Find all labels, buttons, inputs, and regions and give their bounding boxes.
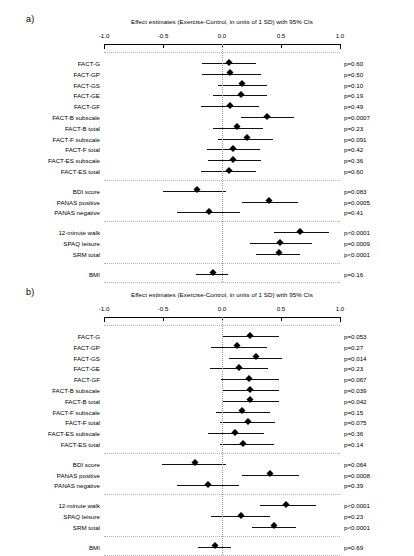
forest-row: BMIp=0.69 xyxy=(0,542,414,553)
forest-row: FACT-B totalp=0.042 xyxy=(0,396,414,407)
point-estimate-marker xyxy=(275,249,282,256)
forest-row: FACT-GFp=0.067 xyxy=(0,374,414,385)
forest-row: FACT-Gp=0.60 xyxy=(0,58,414,69)
row-label: FACT-G xyxy=(8,331,100,342)
point-estimate-marker xyxy=(239,407,246,414)
p-value-label: p=0.50 xyxy=(344,69,414,80)
p-value-label: p=0.60 xyxy=(344,58,414,69)
row-label: BMI xyxy=(8,542,100,553)
point-estimate-marker xyxy=(229,145,236,152)
point-estimate-marker xyxy=(282,501,289,508)
panel-a-title: Effect estimates (Exercise-Control, in u… xyxy=(104,18,340,25)
row-label: FACT-ES subscale xyxy=(8,428,100,439)
point-estimate-marker xyxy=(226,58,233,65)
point-estimate-marker xyxy=(211,542,218,549)
axis-tick-label: -1.0 xyxy=(99,32,110,39)
p-value-label: p=0.039 xyxy=(344,385,414,396)
confidence-interval-bar xyxy=(220,444,274,445)
p-value-label: p=0.27 xyxy=(344,342,414,353)
p-value-label: p=0.064 xyxy=(344,459,414,470)
p-value-label: p=0.0008 xyxy=(344,470,414,481)
row-label: BDI score xyxy=(8,186,100,197)
forest-row: FACT-B subscalep=0.039 xyxy=(0,385,414,396)
point-estimate-marker xyxy=(246,375,253,382)
point-estimate-marker xyxy=(235,364,242,371)
p-value-label: p=0.49 xyxy=(344,101,414,112)
row-label: FACT-F total xyxy=(8,144,100,155)
p-value-label: p=0.10 xyxy=(344,80,414,91)
forest-row: FACT-B subscalep=0.0007 xyxy=(0,112,414,123)
point-estimate-marker xyxy=(243,134,250,141)
p-value-label: p=0.014 xyxy=(344,353,414,364)
point-estimate-marker xyxy=(247,385,254,392)
forest-row: FACT-F totalp=0.075 xyxy=(0,417,414,428)
point-estimate-marker xyxy=(194,186,201,193)
p-value-label: p=0.042 xyxy=(344,396,414,407)
panel-b-title: Effect estimates (Exercise-Control, in u… xyxy=(104,291,340,298)
point-estimate-marker xyxy=(240,439,247,446)
forest-row: FACT-GEp=0.23 xyxy=(0,363,414,374)
point-estimate-marker xyxy=(204,481,211,488)
point-estimate-marker xyxy=(234,123,241,130)
row-label: BDI score xyxy=(8,459,100,470)
row-label: FACT-GP xyxy=(8,342,100,353)
forest-row: 12-minute walkp<0.0001 xyxy=(0,500,414,511)
point-estimate-marker xyxy=(267,470,274,477)
axis-tick xyxy=(340,44,341,49)
row-label: FACT-B total xyxy=(8,396,100,407)
p-value-label: p=0.69 xyxy=(344,542,414,553)
p-value-label: p=0.053 xyxy=(344,331,414,342)
row-label: FACT-GE xyxy=(8,363,100,374)
axis-tick-label: 0.0 xyxy=(218,305,227,312)
forest-row: FACT-ES totalp=0.14 xyxy=(0,439,414,450)
forest-row: FACT-GPp=0.50 xyxy=(0,69,414,80)
p-value-label: p=0.19 xyxy=(344,90,414,101)
point-estimate-marker xyxy=(253,353,260,360)
row-label: FACT-GF xyxy=(8,101,100,112)
forest-row: FACT-ES totalp=0.60 xyxy=(0,166,414,177)
forest-plot-panel-b: b) Effect estimates (Exercise-Control, i… xyxy=(0,273,414,547)
row-label: FACT-F total xyxy=(8,417,100,428)
row-label: 12-minute walk xyxy=(8,500,100,511)
panel-b-axis: -1.0-0.50.00.51.0 xyxy=(0,303,414,325)
p-value-label: p=0.091 xyxy=(344,134,414,145)
panel-b-label: b) xyxy=(26,287,34,297)
axis-tick-label: -0.5 xyxy=(158,32,169,39)
forest-row: SRM totalp<0.0001 xyxy=(0,522,414,533)
forest-row: PANAS positivep=0.0005 xyxy=(0,197,414,208)
zero-reference-line xyxy=(222,44,223,282)
axis-tick xyxy=(104,44,105,49)
point-estimate-marker xyxy=(191,459,198,466)
point-estimate-marker xyxy=(227,69,234,76)
p-value-label: p=0.23 xyxy=(344,123,414,134)
p-value-label: p=0.23 xyxy=(344,363,414,374)
point-estimate-marker xyxy=(226,166,233,173)
forest-row: FACT-F subscalep=0.091 xyxy=(0,134,414,145)
point-estimate-marker xyxy=(266,197,273,204)
forest-row: FACT-F totalp=0.42 xyxy=(0,144,414,155)
forest-row: FACT-GPp=0.27 xyxy=(0,342,414,353)
axis-tick-label: 1.0 xyxy=(336,305,345,312)
p-value-label: p<0.0001 xyxy=(344,522,414,533)
point-estimate-marker xyxy=(296,228,303,235)
point-estimate-marker xyxy=(231,429,238,436)
point-estimate-marker xyxy=(263,112,270,119)
row-label: PANAS negative xyxy=(8,207,100,218)
forest-row: FACT-F subscalep=0.15 xyxy=(0,407,414,418)
forest-row: FACT-ES subscalep=0.36 xyxy=(0,155,414,166)
panel-a-axis: -1.0-0.50.00.51.0 xyxy=(0,30,414,52)
row-label: SRM total xyxy=(8,249,100,260)
p-value-label: p=0.083 xyxy=(344,186,414,197)
point-estimate-marker xyxy=(276,238,283,245)
axis-tick-label: -1.0 xyxy=(99,305,110,312)
axis-tick xyxy=(281,44,282,48)
axis-tick-label: 0.0 xyxy=(218,32,227,39)
row-label: FACT-G xyxy=(8,58,100,69)
row-label: FACT-GP xyxy=(8,69,100,80)
axis-tick-label: -0.5 xyxy=(158,305,169,312)
forest-row: FACT-GFp=0.49 xyxy=(0,101,414,112)
row-label: FACT-B subscale xyxy=(8,112,100,123)
p-value-label: p=0.15 xyxy=(344,407,414,418)
forest-row: FACT-Gp=0.053 xyxy=(0,331,414,342)
p-value-label: p=0.41 xyxy=(344,207,414,218)
